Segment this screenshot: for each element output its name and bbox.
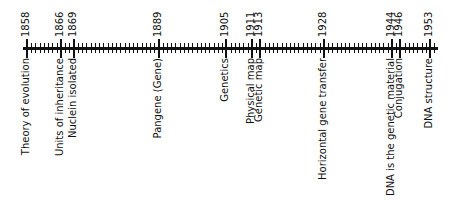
event-label: Pangene (Gene) [153,58,163,138]
minor-tick [125,43,126,53]
minor-tick [388,43,389,53]
minor-tick [82,43,83,53]
minor-tick [129,43,130,53]
minor-tick [231,43,232,53]
minor-tick [383,43,384,53]
minor-tick [222,43,223,53]
minor-tick [290,43,291,53]
minor-tick [188,43,189,53]
minor-tick [434,43,435,53]
minor-tick [341,43,342,53]
year-label: 1953 [424,12,434,37]
minor-tick [426,43,427,53]
minor-tick [40,43,41,53]
minor-tick [44,43,45,53]
major-tick [391,39,393,58]
minor-tick [239,43,240,53]
minor-tick [150,43,151,53]
event-label: Horizontal gene transfer [318,58,328,180]
minor-tick [379,43,380,53]
minor-tick [371,43,372,53]
minor-tick [78,43,79,53]
minor-tick [354,43,355,53]
minor-tick [362,43,363,53]
minor-tick [154,43,155,53]
minor-tick [277,43,278,53]
event-label: Conjugation [394,58,404,118]
event-label: DNA structure [424,58,434,129]
minor-tick [112,43,113,53]
minor-tick [358,43,359,53]
year-label: 1858 [21,12,31,37]
minor-tick [48,43,49,53]
minor-tick [273,43,274,53]
minor-tick [248,43,249,53]
minor-tick [167,43,168,53]
year-label: 1946 [394,12,404,37]
minor-tick [422,43,423,53]
minor-tick [52,43,53,53]
minor-tick [413,43,414,53]
genetics-history-timeline: 1858 Theory of evolution 1866 Units of i… [0,0,453,208]
year-label: 1869 [68,12,78,37]
major-tick [251,39,253,58]
minor-tick [86,43,87,53]
minor-tick [192,43,193,53]
minor-tick [409,43,410,53]
minor-tick [95,43,96,53]
minor-tick [137,43,138,53]
minor-tick [184,43,185,53]
minor-tick [171,43,172,53]
minor-tick [69,43,70,53]
minor-tick [35,43,36,53]
event-label: Genetics [220,58,230,102]
minor-tick [146,43,147,53]
minor-tick [201,43,202,53]
major-tick [323,39,325,58]
minor-tick [91,43,92,53]
minor-tick [396,43,397,53]
major-tick [225,39,227,58]
major-tick [158,39,160,58]
major-tick [73,39,75,58]
minor-tick [345,43,346,53]
minor-tick [315,43,316,53]
year-label: 1889 [153,12,163,37]
minor-tick [417,43,418,53]
event-label: Nuclein isolated [68,58,78,138]
minor-tick [120,43,121,53]
minor-tick [243,43,244,53]
minor-tick [405,43,406,53]
minor-tick [235,43,236,53]
minor-tick [349,43,350,53]
minor-tick [332,43,333,53]
year-label: 1928 [318,12,328,37]
minor-tick [65,43,66,53]
minor-tick [197,43,198,53]
minor-tick [311,43,312,53]
minor-tick [298,43,299,53]
minor-tick [133,43,134,53]
minor-tick [214,43,215,53]
event-label: Units of inheritance [55,58,65,156]
year-label: 1913 [254,12,264,37]
minor-tick [366,43,367,53]
minor-tick [256,43,257,53]
minor-tick [303,43,304,53]
event-label: Genetic map [254,58,264,122]
year-label: 1866 [55,12,65,37]
minor-tick [265,43,266,53]
major-tick [429,39,431,58]
minor-tick [218,43,219,53]
major-tick [399,39,401,58]
minor-tick [31,43,32,53]
event-label: Theory of evolution [21,58,31,155]
minor-tick [163,43,164,53]
minor-tick [294,43,295,53]
minor-tick [180,43,181,53]
minor-tick [375,43,376,53]
minor-tick [328,43,329,53]
year-label: 1905 [220,12,230,37]
minor-tick [282,43,283,53]
minor-tick [142,43,143,53]
